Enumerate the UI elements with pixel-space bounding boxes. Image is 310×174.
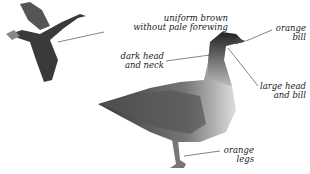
label-line: bill	[266, 33, 306, 42]
label-head-bill: large head and bill	[250, 82, 306, 100]
label-line: without pale forewing	[100, 23, 228, 32]
flying-goose-icon	[6, 2, 86, 82]
label-line: legs	[210, 155, 254, 164]
label-forewing: uniform brown without pale forewing	[100, 14, 228, 32]
label-head-neck: dark head and neck	[100, 52, 164, 70]
label-line: and neck	[100, 61, 164, 70]
label-legs: orange legs	[210, 146, 254, 164]
goose-id-diagram: uniform brown without pale forewing dark…	[0, 0, 310, 174]
label-bill: orange bill	[266, 24, 306, 42]
label-line: and bill	[250, 91, 306, 100]
